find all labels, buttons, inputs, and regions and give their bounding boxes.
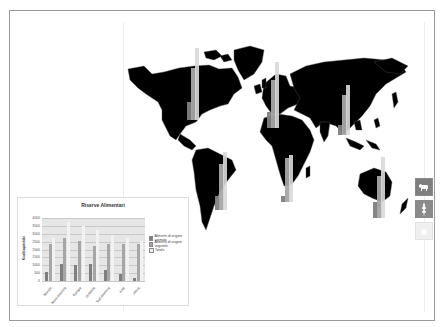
gridline <box>42 281 145 282</box>
total-filter-button[interactable] <box>415 222 433 240</box>
legend-swatch <box>149 248 154 253</box>
map-bar-total <box>381 157 385 218</box>
chart-bar <box>111 235 114 281</box>
animal-filter-button[interactable] <box>415 178 433 196</box>
chart-bar <box>122 244 125 281</box>
chart-bar <box>52 238 55 281</box>
y-tick-label: 2000 <box>22 248 40 252</box>
legend-swatch <box>149 242 153 247</box>
x-tick-label: Mondo <box>42 286 52 297</box>
y-tick-label: 2500 <box>22 240 40 244</box>
chart-bar <box>74 265 77 281</box>
gridline <box>42 218 145 219</box>
animal-icon <box>418 182 430 192</box>
x-tick-label: Oceania <box>85 286 96 299</box>
chart-bar <box>67 222 70 281</box>
y-tick-label: 1000 <box>22 263 40 267</box>
legend-item: Alimenti di origine vegetale <box>149 241 188 247</box>
y-tick-label: 500 <box>22 271 40 275</box>
y-tick-label: 0 <box>22 279 40 283</box>
chart-bar <box>137 244 140 281</box>
chart-legend: Alimenti di origine animaleAlimenti di o… <box>149 235 188 253</box>
y-tick-label: 4000 <box>22 216 40 220</box>
chart-bar <box>96 230 99 281</box>
food-reserves-chart: Riserve Alimentari Kcal/capite/die 05001… <box>17 197 189 306</box>
chart-bar <box>93 246 96 281</box>
chart-title: Riserve Alimentari <box>18 202 188 208</box>
legend-label: Totale <box>155 248 164 252</box>
chart-bar <box>126 238 129 281</box>
chart-bar <box>63 238 66 281</box>
chart-bar <box>45 272 48 281</box>
plot-area <box>42 218 145 282</box>
gridline <box>42 242 145 243</box>
y-tick-label: 1500 <box>22 255 40 259</box>
gridline <box>42 226 145 227</box>
legend-label: Alimenti di origine vegetale <box>154 240 188 248</box>
x-tick-label: Nord America <box>50 286 67 305</box>
plant-filter-button[interactable] <box>415 200 433 218</box>
x-tick-label: Europa <box>72 286 82 297</box>
chart-bar <box>140 241 143 281</box>
y-tick-label: 3500 <box>22 224 40 228</box>
chart-bar <box>78 241 81 281</box>
map-bar-total <box>346 85 350 135</box>
map-bar-total <box>223 152 227 210</box>
x-tick-label: Asia <box>119 286 126 294</box>
chart-bar <box>82 226 85 281</box>
x-tick-label: Sud America <box>95 286 111 304</box>
map-bar-total <box>289 155 293 202</box>
map-bar-total <box>195 48 199 120</box>
total-icon <box>419 226 429 236</box>
chart-bar <box>60 264 63 281</box>
gridline <box>42 234 145 235</box>
plant-icon <box>419 202 429 216</box>
x-tick-label: Africa <box>132 286 141 295</box>
chart-bar <box>119 274 122 281</box>
chart-bar <box>49 244 52 281</box>
map-bar-total <box>275 62 279 128</box>
chart-bar <box>107 244 110 281</box>
chart-bar <box>133 278 136 281</box>
y-tick-label: 3000 <box>22 232 40 236</box>
chart-bar <box>104 270 107 281</box>
chart-bar <box>89 264 92 281</box>
legend-swatch <box>149 236 153 241</box>
